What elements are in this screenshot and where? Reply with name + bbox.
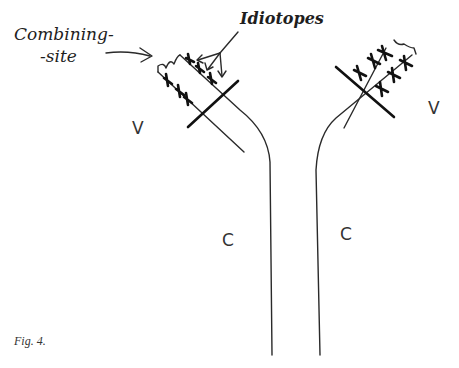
v-region-label-left: V	[132, 118, 144, 138]
v-region-label-right: V	[428, 98, 440, 118]
c-region-label-right: C	[340, 224, 352, 244]
combining-site-label-line1: Combining-	[14, 24, 114, 44]
antibody-diagram: Combining- -site Idiotopes	[0, 0, 459, 368]
combining-site-arrow-icon	[106, 48, 152, 62]
combining-site-label-line2: -site	[40, 46, 77, 66]
idiotopes-label: Idiotopes	[239, 9, 324, 28]
figure-caption: Fig. 4.	[14, 334, 46, 349]
left-arm	[158, 54, 272, 355]
right-arm	[316, 40, 416, 355]
left-outer-marks-icon	[164, 74, 192, 105]
c-region-label-left: C	[222, 230, 234, 250]
